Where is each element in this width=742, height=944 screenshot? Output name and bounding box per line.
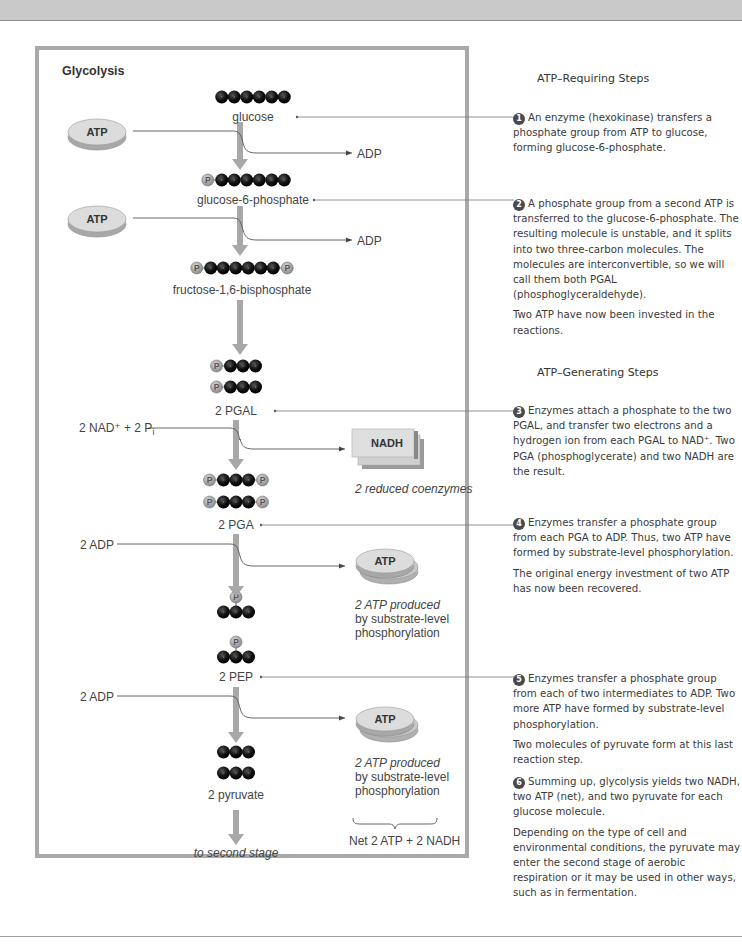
- arrow-pep-to-pyruvate: [228, 687, 244, 743]
- carbon-dot: [242, 386, 244, 388]
- carbon-dot: [221, 179, 223, 181]
- carbon-dot: [248, 501, 250, 503]
- reaction-line-adp-2: [117, 696, 345, 718]
- brace-path: [353, 818, 437, 829]
- carbon-dot: [246, 179, 248, 181]
- step-1-badge: 1: [513, 113, 525, 125]
- step-4-badge: 4: [513, 518, 525, 530]
- carbon-dot: [233, 179, 235, 181]
- label-glucose: glucose: [232, 110, 273, 124]
- carbon-dot: [271, 179, 273, 181]
- arrow-head: [228, 732, 244, 743]
- label-fructose-bisphosphate: fructose-1,6-bisphosphate: [173, 283, 312, 297]
- carbon-dot: [223, 611, 225, 613]
- atp-caption-1-line-3: phosphorylation: [355, 626, 449, 640]
- atp-output-1-label: ATP: [374, 555, 395, 567]
- phosphate-symbol: P: [207, 475, 213, 485]
- label-pga: 2 PGA: [218, 518, 253, 532]
- section-atp-requiring: ATP–Requiring Steps: [537, 72, 649, 85]
- label-reduced-coenzymes: 2 reduced coenzymes: [355, 482, 472, 496]
- atp-caption-2-italic: 2 ATP produced: [355, 756, 449, 770]
- carbon-dot: [246, 96, 248, 98]
- step-6-badge: 6: [513, 777, 525, 789]
- nad-text: 2 NAD⁺ + 2 P: [79, 421, 152, 435]
- atp-caption-2: 2 ATP produced by substrate-level phosph…: [355, 756, 449, 798]
- carbon-dot: [235, 267, 237, 269]
- carbon-dot: [247, 267, 249, 269]
- label-nad-input: 2 NAD⁺ + 2 Pi: [79, 421, 154, 437]
- arrow-pga-to-pep: [228, 534, 244, 597]
- step-5-text: Enzymes transfer a phosphate group from …: [513, 673, 735, 730]
- label-pyruvate: 2 pyruvate: [208, 788, 264, 802]
- atp-output-2-label: ATP: [374, 713, 395, 725]
- step-2: 2A phosphate group from a second ATP is …: [513, 196, 741, 343]
- carbon-dot: [260, 267, 262, 269]
- arrow-to-second-stage: [228, 810, 244, 845]
- atp-input-1-label: ATP: [86, 126, 107, 138]
- carbon-dot: [235, 751, 237, 753]
- pyruvate-molecule-2: [217, 767, 255, 780]
- step-3: 3Enzymes attach a phosphate to the two P…: [513, 403, 741, 484]
- carbon-dot: [233, 96, 235, 98]
- phosphate-symbol: P: [233, 637, 239, 647]
- atp-caption-2-line-2: by substrate-level: [355, 770, 449, 784]
- phosphate-symbol: P: [214, 361, 220, 371]
- carbon-dot: [222, 267, 224, 269]
- carbon-dot: [258, 96, 260, 98]
- section-atp-generating: ATP–Generating Steps: [537, 366, 658, 379]
- pga-molecule-2: PP: [204, 496, 269, 509]
- step-5: 5Enzymes transfer a phosphate group from…: [513, 671, 741, 772]
- arrow-shaft: [233, 534, 239, 587]
- arrow-head: [232, 159, 248, 170]
- pep-molecule-2: P: [217, 636, 255, 664]
- arrow-head: [232, 344, 248, 355]
- carbon-dot: [248, 479, 250, 481]
- carbon-dot: [223, 656, 225, 658]
- carbon-dot: [230, 365, 232, 367]
- arrow-shaft: [233, 687, 239, 733]
- carbon-dot: [235, 772, 237, 774]
- step-1: 1An enzyme (hexokinase) transfers a phos…: [513, 110, 741, 161]
- carbon-dot: [242, 365, 244, 367]
- step-5-badge: 5: [513, 674, 525, 686]
- carbon-dot: [221, 96, 223, 98]
- carbon-dot: [235, 479, 237, 481]
- label-adp-output-2: ADP: [357, 234, 382, 248]
- arrow-pgal-to-pga: [228, 420, 244, 470]
- arrow-shaft: [237, 300, 243, 345]
- reaction-line-nad: [148, 428, 345, 449]
- step-3-badge: 3: [513, 406, 525, 418]
- step-6: 6Summing up, glycolysis yields two NADH,…: [513, 774, 741, 906]
- carbon-dot: [248, 611, 250, 613]
- label-to-second-stage: to second stage: [194, 846, 279, 860]
- arrow-head: [232, 245, 248, 256]
- carbon-dot: [258, 179, 260, 181]
- leader-step-5: [260, 676, 514, 678]
- step-6-note: Depending on the type of cell and enviro…: [513, 825, 741, 901]
- step-2-text: A phosphate group from a second ATP is t…: [513, 198, 739, 300]
- phosphate-symbol: P: [260, 497, 266, 507]
- carbon-dot: [235, 501, 237, 503]
- glucose-6-phosphate-molecule: P: [202, 174, 291, 187]
- step-4: 4Enzymes transfer a phosphate group from…: [513, 515, 741, 601]
- step-3-text: Enzymes attach a phosphate to the two PG…: [513, 405, 735, 477]
- nadh-box-label: NADH: [371, 437, 403, 449]
- pi-subscript: i: [152, 427, 154, 437]
- carbon-dot: [235, 656, 237, 658]
- label-net-yield: Net 2 ATP + 2 NADH: [349, 834, 460, 848]
- carbon-dot: [230, 386, 232, 388]
- carbon-dot: [283, 96, 285, 98]
- arrow-shaft: [233, 810, 239, 835]
- phosphate-symbol: P: [207, 497, 213, 507]
- fructose-bisphosphate-molecule: PP: [191, 262, 294, 275]
- nadh-box: [352, 429, 424, 469]
- arrow-head: [228, 834, 244, 845]
- carbon-dot: [248, 751, 250, 753]
- label-adp-output-1: ADP: [357, 147, 382, 161]
- phosphate-symbol: P: [284, 263, 290, 273]
- atp-caption-2-line-3: phosphorylation: [355, 784, 449, 798]
- arrow-f16bp-to-pgal: [232, 300, 248, 355]
- carbon-dot: [248, 772, 250, 774]
- step-4-note: The original energy investment of two AT…: [513, 566, 741, 596]
- leader-step-3: [274, 410, 514, 412]
